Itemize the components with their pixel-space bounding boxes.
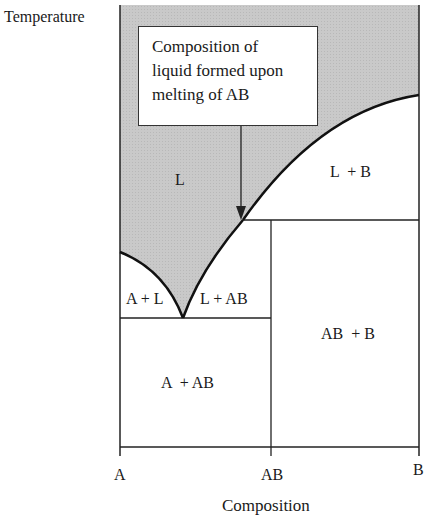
x-axis-label: Composition <box>222 497 310 514</box>
callout-line-2: liquid formed upon <box>152 59 309 83</box>
x-tick-b: B <box>413 462 424 478</box>
region-label-liquid-plus-ab: L + AB <box>200 291 248 307</box>
callout-line-1: Composition of <box>152 35 309 59</box>
callout-box: Composition of liquid formed upon meltin… <box>138 26 318 126</box>
x-tick-ab: AB <box>261 467 283 483</box>
region-label-liquid: L <box>175 172 185 188</box>
y-axis-label: Temperature <box>4 9 85 25</box>
x-tick-a: A <box>114 467 126 483</box>
region-label-a-plus-ab: A + AB <box>161 375 214 391</box>
region-label-liquid-plus-b: L + B <box>330 164 371 180</box>
callout-line-3: melting of AB <box>152 83 309 107</box>
region-label-ab-plus-b: AB + B <box>321 326 375 342</box>
region-label-a-plus-liquid: A + L <box>126 291 163 307</box>
